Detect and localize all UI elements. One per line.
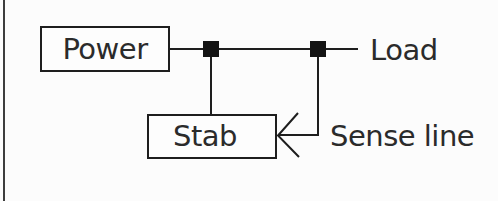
junction-node-icon	[310, 41, 326, 57]
power-label: Power	[62, 35, 147, 64]
stab-box: Stab	[147, 114, 277, 159]
power-box: Power	[40, 26, 170, 72]
power-stab-load-diagram: Power Stab Load Sense line	[0, 0, 498, 201]
load-label: Load	[370, 36, 438, 65]
junction-node-icon	[203, 41, 219, 57]
stab-label: Stab	[173, 122, 237, 151]
sense-line-label: Sense line	[330, 122, 474, 151]
sense-wire	[279, 49, 318, 135]
